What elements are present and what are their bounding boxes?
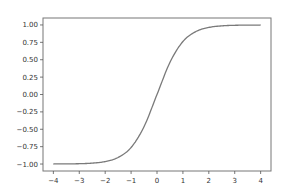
- x-tick-label: 3: [232, 177, 236, 185]
- y-tick-label: −1.00: [17, 161, 38, 169]
- x-tick-label: −4: [48, 177, 59, 185]
- y-tick-label: −0.25: [17, 108, 38, 116]
- y-tick-label: 0.00: [22, 91, 38, 99]
- y-axis-ticks: −1.00−0.75−0.50−0.250.000.250.500.751.00: [17, 21, 43, 168]
- x-tick-label: 0: [155, 177, 159, 185]
- y-tick-label: −0.75: [17, 143, 38, 151]
- y-tick-label: 0.50: [22, 56, 38, 64]
- x-axis-ticks: −4−3−2−101234: [48, 171, 263, 185]
- y-tick-label: 0.25: [22, 74, 38, 82]
- x-tick-label: 1: [181, 177, 185, 185]
- y-tick-label: 1.00: [22, 21, 38, 29]
- y-tick-label: 0.75: [22, 39, 38, 47]
- x-tick-label: 4: [258, 177, 263, 185]
- y-tick-label: −0.50: [17, 126, 38, 134]
- x-tick-label: −1: [126, 177, 136, 185]
- x-tick-label: −3: [74, 177, 84, 185]
- x-tick-label: −2: [100, 177, 110, 185]
- x-tick-label: 2: [207, 177, 211, 185]
- tanh-line-chart: −4−3−2−101234 −1.00−0.75−0.50−0.250.000.…: [0, 0, 288, 193]
